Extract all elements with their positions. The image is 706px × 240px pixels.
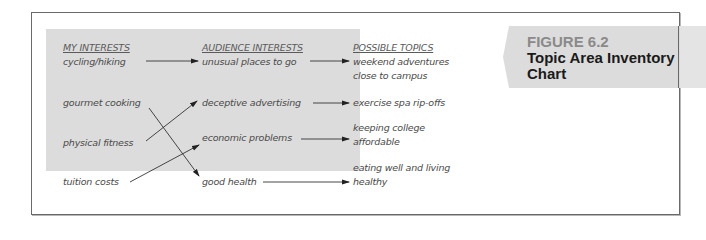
arrow-cooking-to-good-health (149, 108, 199, 176)
arrow-fitness-to-deceptive-advertising (146, 101, 197, 141)
connector-arrows (0, 0, 706, 240)
arrow-tuition-to-economic-problems (130, 145, 199, 182)
